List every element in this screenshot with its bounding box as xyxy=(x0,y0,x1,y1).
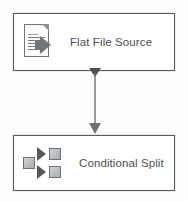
split-input-square xyxy=(23,157,35,169)
conditional-split-icon xyxy=(23,144,65,182)
data-flow-component-flat-file-source[interactable]: Flat File Source xyxy=(13,13,175,71)
split-output-square-bottom xyxy=(49,166,61,178)
flow-arrow-head xyxy=(40,36,51,54)
data-flow-canvas[interactable]: Flat File Source Conditional Split xyxy=(0,0,188,201)
split-arrow-top xyxy=(37,147,46,161)
split-output-square-top xyxy=(49,148,61,160)
split-arrow-bottom xyxy=(37,165,46,179)
component-label-flat-file-source: Flat File Source xyxy=(70,36,152,48)
data-flow-component-conditional-split[interactable]: Conditional Split xyxy=(13,135,175,191)
flat-file-source-icon xyxy=(23,22,63,62)
component-label-conditional-split: Conditional Split xyxy=(79,157,164,169)
document-fold-corner xyxy=(42,24,49,31)
connector-end-arrowhead xyxy=(89,123,101,134)
